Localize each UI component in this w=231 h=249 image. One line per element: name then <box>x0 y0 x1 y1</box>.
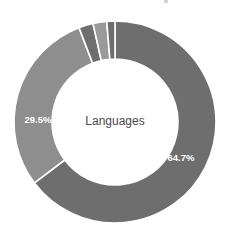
slice-percentage-label-2: 29.5% <box>25 114 52 125</box>
slice-percentage-label-1: 64.7% <box>168 152 195 163</box>
donut-chart-svg: 64.7% 29.5% Languages <box>0 0 231 249</box>
donut-slice-2[interactable] <box>14 28 93 183</box>
donut-center-label: Languages <box>85 114 144 128</box>
cropped-title-remnant <box>164 0 168 3</box>
donut-chart: 64.7% 29.5% Languages <box>0 0 231 249</box>
